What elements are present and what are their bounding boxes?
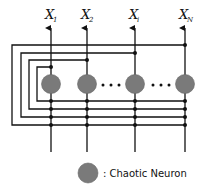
legend-label: : Chaotic Neuron (103, 168, 187, 179)
output-label-xn: X N (178, 7, 194, 24)
legend-neuron-icon (78, 163, 98, 183)
svg-text:N: N (186, 16, 194, 24)
legend: : Chaotic Neuron (78, 163, 187, 183)
chaotic-neuron-n (176, 75, 195, 94)
chaotic-neuron-1 (42, 75, 61, 94)
output-label-x1: X 1 (44, 7, 57, 24)
network-diagram: X 1 X 2 X i X N (0, 0, 203, 191)
feedback-loop-n (12, 45, 185, 125)
output-label-x2: X 2 (80, 7, 94, 24)
output-label-xi: X i (128, 7, 139, 24)
svg-text:i: i (137, 16, 139, 24)
svg-text:2: 2 (88, 16, 94, 24)
chaotic-neuron-i (126, 75, 145, 94)
svg-text:1: 1 (53, 16, 57, 24)
chaotic-neuron-2 (78, 75, 97, 94)
